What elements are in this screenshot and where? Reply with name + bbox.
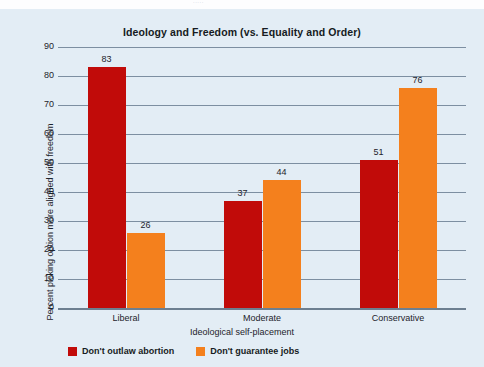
gridline	[58, 47, 466, 48]
legend-swatch-icon	[68, 347, 77, 356]
bar-value-label: 44	[262, 167, 302, 177]
x-axis-line	[58, 308, 466, 310]
bar-value-label: 26	[126, 220, 166, 230]
chart-title: Ideology and Freedom (vs. Equality and O…	[0, 26, 484, 38]
page-scan-artifact: ·····	[193, 0, 219, 5]
bar-value-label: 37	[223, 188, 263, 198]
y-axis-tick-label: 50	[24, 157, 54, 167]
y-axis-tick-label: 40	[24, 186, 54, 196]
y-axis-tick-label: 60	[24, 128, 54, 138]
page-edge-clip	[1, 136, 11, 150]
plot-area: 832637445176	[58, 47, 466, 308]
legend-swatch-icon	[196, 347, 205, 356]
x-axis-tick-moderate: Moderate	[202, 313, 322, 323]
x-axis-tick-liberal: Liberal	[66, 313, 186, 323]
y-axis-tick-label: 30	[24, 215, 54, 225]
y-axis-tick-label: 90	[24, 41, 54, 51]
bar-conservative-abortion	[360, 160, 398, 308]
page-top-margin: ·····	[0, 0, 484, 9]
legend-label: Don't guarantee jobs	[210, 346, 299, 356]
x-axis-title: Ideological self-placement	[0, 327, 484, 337]
legend-item[interactable]: Don't outlaw abortion	[68, 346, 174, 356]
x-axis-tick-conservative: Conservative	[338, 313, 458, 323]
y-axis-tick-label: 70	[24, 99, 54, 109]
y-axis-tick-label: 0	[24, 302, 54, 312]
chart-figure: Ideology and Freedom (vs. Equality and O…	[0, 9, 484, 367]
y-axis-tick-label: 10	[24, 273, 54, 283]
legend-label: Don't outlaw abortion	[82, 346, 174, 356]
bar-value-label: 76	[398, 75, 438, 85]
bar-liberal-jobs	[127, 233, 165, 308]
bar-moderate-jobs	[263, 180, 301, 308]
bar-conservative-jobs	[399, 88, 437, 308]
legend-item[interactable]: Don't guarantee jobs	[196, 346, 299, 356]
y-axis-tick-label: 20	[24, 244, 54, 254]
bar-moderate-abortion	[224, 201, 262, 308]
y-axis-tick-label: 80	[24, 70, 54, 80]
y-axis-tick-labels: 0102030405060708090	[20, 47, 54, 308]
bar-value-label: 83	[87, 54, 127, 64]
chart-legend: Don't outlaw abortionDon't guarantee job…	[68, 345, 321, 357]
bar-value-label: 51	[359, 147, 399, 157]
bar-liberal-abortion	[88, 67, 126, 308]
